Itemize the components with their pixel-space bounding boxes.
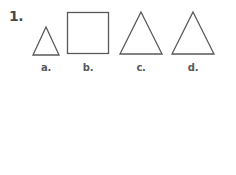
choice-art: [168, 6, 218, 58]
square-icon: [65, 8, 111, 58]
choice-art: [63, 6, 113, 58]
choice-art: [116, 6, 166, 58]
choice-1d[interactable]: d.: [168, 6, 218, 73]
choice-1c[interactable]: c.: [116, 6, 166, 73]
choice-1b[interactable]: b.: [63, 6, 113, 73]
large-triangle-icon: [117, 8, 165, 58]
choice-label: c.: [116, 62, 166, 73]
large-triangle-icon: [169, 8, 217, 58]
choice-label: d.: [168, 62, 218, 73]
small-triangle-icon: [31, 24, 61, 58]
question-row-3: 3.: [0, 86, 236, 175]
question-row-1: 1. a. b. c: [0, 0, 236, 86]
worksheet-page: 1. a. b. c: [0, 0, 236, 175]
choice-label: b.: [63, 62, 113, 73]
